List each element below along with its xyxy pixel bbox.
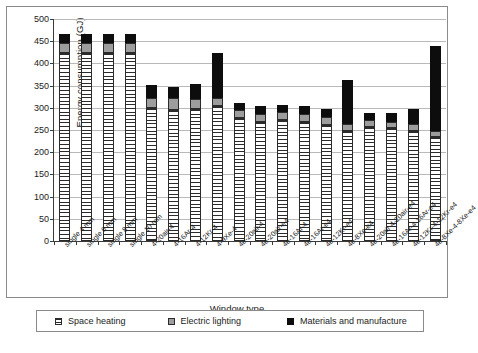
gray-swatch bbox=[168, 318, 175, 325]
bar-segment-black bbox=[277, 105, 288, 112]
legend-item: Electric lighting bbox=[168, 316, 242, 326]
bar-group bbox=[315, 19, 337, 241]
bar-segment-hatch bbox=[59, 53, 70, 241]
legend-label: Materials and manufacture bbox=[300, 316, 407, 326]
y-tick-label: 100 bbox=[34, 192, 49, 201]
bar-group bbox=[54, 19, 76, 241]
bar-series-container bbox=[54, 19, 446, 241]
hatch-swatch bbox=[55, 318, 62, 325]
bar-segment-gray bbox=[190, 99, 201, 109]
bar-segment-gray bbox=[342, 124, 353, 131]
y-tick-label: 50 bbox=[39, 214, 49, 223]
y-tick-label: 250 bbox=[34, 126, 49, 135]
chart-legend: Space heatingElectric lightingMaterials … bbox=[36, 310, 424, 332]
chart-frame: Energy consumption (GJ) 0501001502002503… bbox=[6, 6, 448, 298]
bar-segment-black bbox=[386, 113, 397, 121]
bar-group bbox=[163, 19, 185, 241]
bar-segment-hatch bbox=[212, 106, 223, 241]
bar-segment-hatch bbox=[81, 53, 92, 241]
bar-segment-gray bbox=[255, 114, 266, 122]
bar-segment-black bbox=[234, 103, 245, 110]
legend-item: Space heating bbox=[55, 316, 126, 326]
bar-segment-gray bbox=[146, 98, 157, 109]
bar-segment-gray bbox=[277, 112, 288, 120]
stacked-bar bbox=[190, 84, 201, 241]
bar-segment-black bbox=[125, 34, 136, 43]
y-tick-label: 150 bbox=[34, 170, 49, 179]
bar-segment-black bbox=[321, 109, 332, 117]
bar-segment-black bbox=[59, 34, 70, 43]
stacked-bar bbox=[168, 87, 179, 242]
bar-group bbox=[185, 19, 207, 241]
bar-segment-gray bbox=[408, 124, 419, 131]
plot-area: 050100150200250300350400450500 bbox=[53, 19, 446, 242]
stacked-bar bbox=[103, 34, 114, 241]
bar-segment-black bbox=[408, 109, 419, 124]
bar-segment-black bbox=[299, 106, 310, 114]
bar-group bbox=[272, 19, 294, 241]
bar-segment-gray bbox=[125, 43, 136, 52]
y-tick-label: 200 bbox=[34, 148, 49, 157]
bar-segment-gray bbox=[321, 117, 332, 125]
bar-segment-gray bbox=[299, 114, 310, 122]
bar-segment-hatch bbox=[103, 53, 114, 241]
bar-group bbox=[206, 19, 228, 241]
bar-segment-black bbox=[255, 106, 266, 114]
bar-group bbox=[381, 19, 403, 241]
stacked-bar bbox=[125, 34, 136, 241]
y-tick-label: 500 bbox=[34, 15, 49, 24]
bar-segment-gray bbox=[103, 43, 114, 52]
legend-label: Space heating bbox=[68, 316, 126, 326]
legend-item: Materials and manufacture bbox=[287, 316, 407, 326]
bar-segment-black bbox=[146, 85, 157, 98]
bar-segment-gray bbox=[386, 122, 397, 129]
bar-segment-gray bbox=[212, 98, 223, 106]
x-axis-labels: single 4 mmsingle 6 mmsingle 8 mmsingle … bbox=[53, 243, 445, 303]
bar-group bbox=[228, 19, 250, 241]
bar-segment-black bbox=[190, 84, 201, 99]
bar-group bbox=[119, 19, 141, 241]
bar-segment-hatch bbox=[125, 53, 136, 241]
bar-segment-black bbox=[430, 46, 441, 131]
bar-segment-black bbox=[342, 80, 353, 124]
bar-segment-hatch bbox=[190, 109, 201, 241]
bar-segment-gray bbox=[81, 43, 92, 52]
bar-group bbox=[141, 19, 163, 241]
bar-group bbox=[337, 19, 359, 241]
bar-group bbox=[294, 19, 316, 241]
bar-segment-black bbox=[103, 34, 114, 43]
bar-segment-gray bbox=[234, 110, 245, 118]
y-tick-label: 300 bbox=[34, 103, 49, 112]
x-tick-mark bbox=[446, 241, 447, 245]
stacked-bar bbox=[234, 103, 245, 242]
stacked-bar bbox=[212, 53, 223, 241]
bar-segment-gray bbox=[364, 120, 375, 127]
bar-segment-gray bbox=[59, 43, 70, 52]
bar-segment-black bbox=[168, 87, 179, 99]
stacked-bar bbox=[81, 34, 92, 241]
y-tick-label: 0 bbox=[44, 237, 49, 246]
y-tick-label: 350 bbox=[34, 81, 49, 90]
bar-group bbox=[98, 19, 120, 241]
black-swatch bbox=[287, 318, 294, 325]
bar-segment-hatch bbox=[234, 118, 245, 241]
y-tick-label: 400 bbox=[34, 59, 49, 68]
bar-group bbox=[76, 19, 98, 241]
bar-segment-gray bbox=[168, 98, 179, 109]
bar-segment-black bbox=[81, 34, 92, 43]
legend-label: Electric lighting bbox=[181, 316, 242, 326]
bar-group bbox=[250, 19, 272, 241]
bar-group bbox=[359, 19, 381, 241]
stacked-bar bbox=[59, 34, 70, 241]
bar-segment-black bbox=[364, 113, 375, 121]
bar-segment-black bbox=[212, 53, 223, 98]
y-tick-label: 450 bbox=[34, 37, 49, 46]
